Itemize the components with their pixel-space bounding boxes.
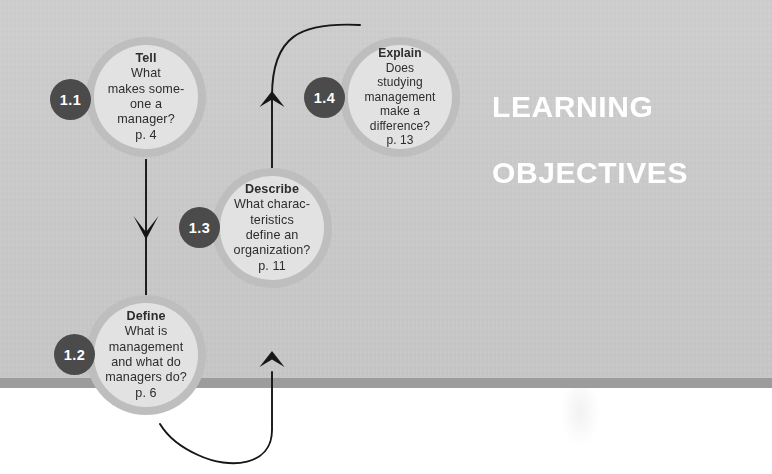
badge-label: 1.4	[314, 90, 335, 106]
objective-badge-1-2[interactable]: 1.2	[54, 334, 95, 375]
badge-label: 1.2	[64, 347, 85, 363]
objective-badge-1-1[interactable]: 1.1	[50, 79, 91, 120]
objective-page-ref: p. 11	[220, 259, 324, 274]
objective-text-1-3: Describe What charac- teristics define a…	[220, 182, 324, 274]
objective-verb: Tell	[94, 51, 198, 66]
objective-circle-1-2[interactable]: Define What is management and what do ma…	[86, 295, 206, 415]
objective-line: What charac-	[220, 197, 324, 212]
objective-verb: Describe	[220, 182, 324, 197]
objective-line: define an	[220, 228, 324, 243]
objective-verb: Define	[94, 309, 198, 324]
badge-label: 1.3	[189, 220, 210, 236]
objective-badge-1-3[interactable]: 1.3	[179, 207, 220, 248]
objective-line: organization?	[220, 243, 324, 258]
objective-line: management	[94, 340, 198, 355]
page-title-line2: OBJECTIVES	[492, 156, 752, 189]
objective-line: What is	[94, 324, 198, 339]
objective-line: What	[94, 66, 198, 81]
objective-badge-1-4[interactable]: 1.4	[304, 77, 345, 118]
objective-line: one a	[94, 97, 198, 112]
objective-line: studying	[348, 75, 452, 90]
objective-line: management	[348, 90, 452, 105]
objective-page-ref: p. 6	[94, 386, 198, 401]
objective-text-1-1: Tell What makes some- one a manager? p. …	[94, 51, 198, 143]
objective-line: manager?	[94, 112, 198, 127]
objective-line: make a	[348, 104, 452, 119]
objective-line: and what do	[94, 355, 198, 370]
objective-line: Does	[348, 61, 452, 76]
page-title: LEARNING OBJECTIVES	[492, 57, 752, 222]
page-title-line1: LEARNING	[492, 90, 752, 123]
objective-text-1-2: Define What is management and what do ma…	[94, 309, 198, 401]
objective-page-ref: p. 4	[94, 128, 198, 143]
objective-line: difference?	[348, 119, 452, 134]
objective-page-ref: p. 13	[348, 133, 452, 148]
objective-circle-1-3[interactable]: Describe What charac- teristics define a…	[212, 168, 332, 288]
objective-line: makes some-	[94, 82, 198, 97]
objective-line: managers do?	[94, 370, 198, 385]
objective-text-1-4: Explain Does studying management make a …	[348, 46, 452, 148]
objective-circle-1-1[interactable]: Tell What makes some- one a manager? p. …	[86, 37, 206, 157]
objective-verb: Explain	[348, 46, 452, 61]
objective-line: teristics	[220, 213, 324, 228]
objective-circle-1-4[interactable]: Explain Does studying management make a …	[340, 37, 460, 157]
badge-label: 1.1	[60, 92, 81, 108]
learning-objectives-figure: Tell What makes some- one a manager? p. …	[0, 0, 772, 474]
arrow-1-1-to-1-2	[134, 159, 159, 295]
